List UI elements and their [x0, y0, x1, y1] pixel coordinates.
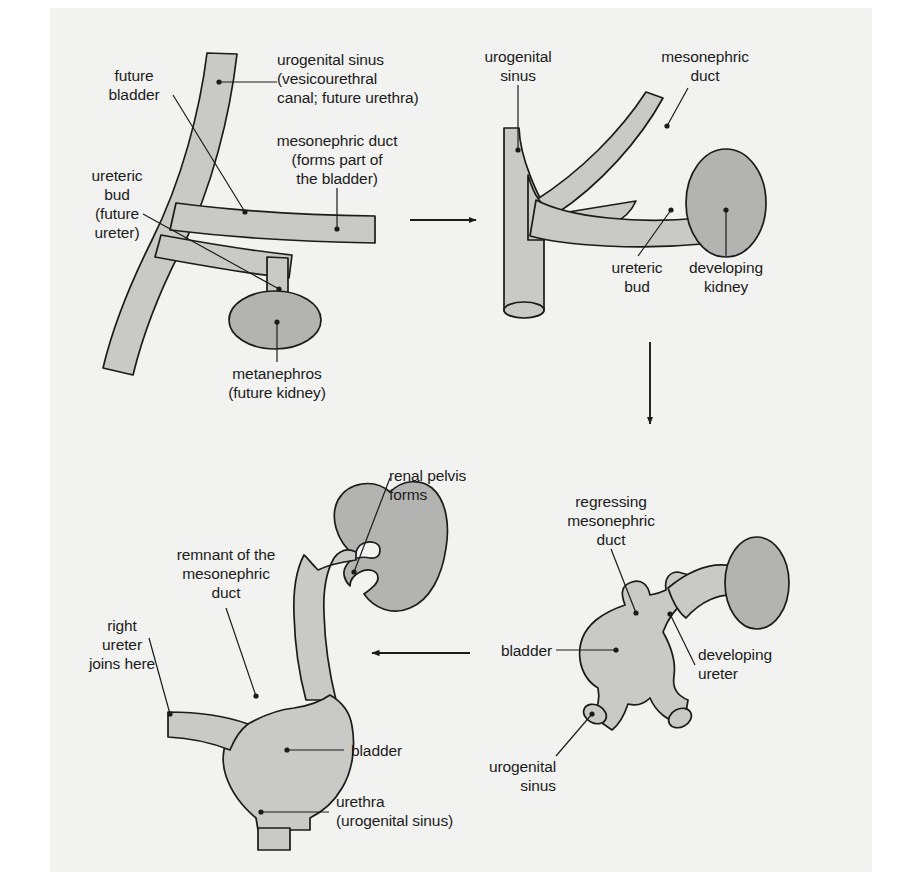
leader-dot	[276, 286, 281, 291]
leader-regressing-duct-p3	[611, 549, 636, 613]
leader-dot	[613, 647, 618, 652]
leader-dot	[668, 207, 673, 212]
label-bladder-p3: bladder	[501, 641, 552, 660]
label-urogenital-sinus-p1: urogenital sinus (vesicourethral canal; …	[277, 50, 419, 107]
developing-kidney-p3	[725, 537, 789, 629]
label-ureteric-bud-p2: ureteric bud	[612, 258, 663, 296]
label-remnant-mesonephric-duct-p4: remnant of the mesonephric duct	[177, 545, 276, 602]
leader-dot	[351, 569, 356, 574]
label-mesonephric-duct-p1: mesonephric duct (forms part of the blad…	[277, 131, 398, 188]
tube-open-end-p2	[504, 302, 544, 318]
leader-dot	[589, 711, 594, 716]
diagram-artwork	[0, 0, 899, 882]
mesonephric-duct-limb-p1	[170, 203, 375, 243]
leader-dot	[723, 207, 728, 212]
leader-urogenital-sinus-p3	[556, 714, 592, 756]
label-bladder-p4: bladder	[351, 741, 402, 760]
label-renal-pelvis-p4: renal pelvis forms	[389, 466, 466, 504]
leader-dot	[216, 79, 221, 84]
label-regressing-mesonephric-duct-p3: regressing mesonephric duct	[567, 492, 655, 549]
leader-dot	[274, 319, 279, 324]
metanephros-oval-p1	[229, 291, 321, 349]
label-urethra-p4: urethra (urogenital sinus)	[336, 792, 453, 830]
leader-dot	[284, 747, 289, 752]
leader-dot	[667, 611, 672, 616]
leader-remnant-duct-p4	[226, 608, 256, 696]
label-metanephros-p1: metanephros (future kidney)	[228, 364, 326, 402]
urethra-p4	[258, 828, 290, 850]
label-urogenital-sinus-p3: urogenital sinus	[489, 757, 556, 795]
leader-mesonephric-duct-p2	[667, 88, 688, 126]
label-mesonephric-duct-p2: mesonephric duct	[661, 47, 749, 85]
label-developing-kidney-p2: developing kidney	[689, 258, 763, 296]
leader-dot	[664, 123, 669, 128]
label-urogenital-sinus-p2: urogenital sinus	[484, 47, 551, 85]
leader-dot	[258, 809, 263, 814]
leader-dot	[242, 209, 247, 214]
label-ureteric-bud-p1: ureteric bud (future ureter)	[92, 166, 143, 242]
embryology-figure: future bladder urogenital sinus (vesicou…	[0, 0, 899, 882]
leader-dot	[253, 693, 258, 698]
label-future-bladder-p1: future bladder	[108, 66, 159, 104]
label-right-ureter-p4: right ureter joins here	[89, 616, 155, 673]
label-developing-ureter-p3: developing ureter	[698, 645, 772, 683]
leader-dot	[334, 226, 339, 231]
leader-dot	[633, 610, 638, 615]
bladder-p4	[223, 695, 353, 830]
mesonephric-duct-limb-p2	[536, 92, 663, 214]
leader-dot	[167, 711, 172, 716]
leader-dot	[515, 147, 520, 152]
